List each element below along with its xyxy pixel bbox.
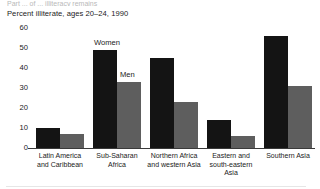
plot-area: 6050403020100 [32, 28, 315, 148]
y-axis-tick-40: 40 [20, 64, 28, 72]
category-label: Sub-SaharanAfrica [85, 152, 149, 169]
category-label-line: Latin America [28, 152, 92, 161]
category-label-line: Sub-Saharan [85, 152, 149, 161]
bar-women [93, 50, 117, 148]
category-label: Northern Africaand western Asia [142, 152, 206, 169]
category-label-line: Africa [85, 161, 149, 170]
category-label-line: Southern Asia [256, 152, 320, 161]
category-label: Southern Asia [256, 152, 320, 161]
category-label-line: Asia [199, 169, 263, 178]
category-label-line: Northern Africa [142, 152, 206, 161]
figure: Part ... of ... illiteracy remains Perce… [0, 0, 320, 189]
category-label-line: and western Asia [142, 161, 206, 170]
category-label: Latin Americaand Caribbean [28, 152, 92, 169]
page-edge-rule [6, 186, 306, 187]
bar-men [60, 134, 84, 148]
bar-men [117, 82, 141, 148]
annotation-men: Men [120, 71, 135, 79]
category-label-line: south-eastern [199, 161, 263, 170]
y-axis-tick-60: 60 [20, 24, 28, 32]
chart-title: Percent illiterate, ages 20–24, 1990 [7, 9, 128, 18]
bar-group [207, 28, 255, 148]
bar-group [264, 28, 312, 148]
y-axis-tick-20: 20 [20, 104, 28, 112]
y-axis-tick-50: 50 [20, 44, 28, 52]
category-label-line: and Caribbean [28, 161, 92, 170]
bar-women [264, 36, 288, 148]
y-axis-tick-10: 10 [20, 124, 28, 132]
category-label: Eastern andsouth-easternAsia [199, 152, 263, 178]
bar-men [288, 86, 312, 148]
bar-group [36, 28, 84, 148]
bar-women [207, 120, 231, 148]
y-axis-tick-30: 30 [20, 84, 28, 92]
bar-group [150, 28, 198, 148]
annotation-women: Women [94, 39, 120, 47]
clipped-header-text: Part ... of ... illiteracy remains [7, 0, 237, 6]
x-axis-line [28, 148, 315, 149]
category-label-line: Eastern and [199, 152, 263, 161]
bar-women [150, 58, 174, 148]
bar-men [174, 102, 198, 148]
bar-men [231, 136, 255, 148]
bar-women [36, 128, 60, 148]
